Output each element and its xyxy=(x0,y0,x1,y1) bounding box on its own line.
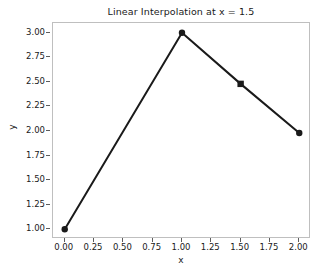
x-tick-label: 0.50 xyxy=(113,242,132,252)
x-tick-label: 1.75 xyxy=(259,242,278,252)
x-tick-label: 1.25 xyxy=(201,242,220,252)
y-tick-mark xyxy=(46,81,50,82)
plot-area xyxy=(52,22,310,238)
data-marker-circle xyxy=(296,130,302,136)
figure-canvas: Linear Interpolation at x = 1.5 1.001.25… xyxy=(0,0,336,279)
y-tick-mark xyxy=(46,204,50,205)
y-tick-mark xyxy=(46,228,50,229)
y-tick-label: 2.25 xyxy=(26,100,45,110)
data-marker-circle xyxy=(179,30,185,36)
y-tick-label: 1.50 xyxy=(26,174,45,184)
y-tick-label: 2.50 xyxy=(26,76,45,86)
y-tick-mark xyxy=(46,179,50,180)
y-axis-label: y xyxy=(7,107,17,147)
x-tick-label: 1.00 xyxy=(172,242,191,252)
y-tick-label: 2.00 xyxy=(26,125,45,135)
y-tick-mark xyxy=(46,155,50,156)
data-series-layer xyxy=(53,23,311,239)
chart-title: Linear Interpolation at x = 1.5 xyxy=(52,6,310,17)
x-tick-label: 2.00 xyxy=(289,242,308,252)
x-axis-tick-labels: 0.000.250.500.751.001.251.501.752.00 xyxy=(52,238,310,256)
y-tick-label: 2.75 xyxy=(26,51,45,61)
x-axis-label: x xyxy=(52,255,310,265)
y-tick-label: 1.75 xyxy=(26,150,45,160)
data-marker-square xyxy=(237,81,243,87)
x-tick-label: 0.25 xyxy=(84,242,103,252)
x-tick-label: 1.50 xyxy=(230,242,249,252)
y-tick-label: 1.00 xyxy=(26,223,45,233)
y-tick-mark xyxy=(46,130,50,131)
x-tick-label: 0.75 xyxy=(142,242,161,252)
series-line xyxy=(65,33,300,229)
y-tick-mark xyxy=(46,56,50,57)
data-marker-circle xyxy=(62,226,68,232)
y-tick-mark xyxy=(46,105,50,106)
y-tick-label: 1.25 xyxy=(26,199,45,209)
x-tick-label: 0.00 xyxy=(54,242,73,252)
y-tick-label: 3.00 xyxy=(26,27,45,37)
y-tick-mark xyxy=(46,32,50,33)
